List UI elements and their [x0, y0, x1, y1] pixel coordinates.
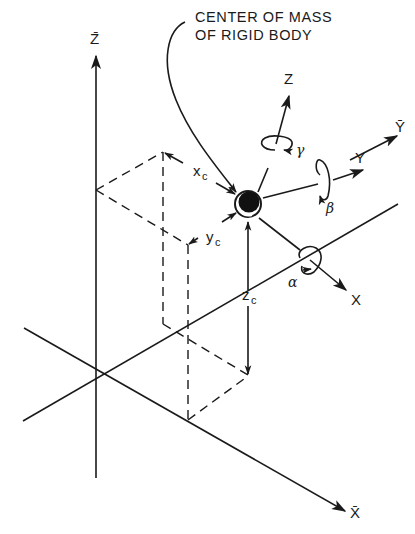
projection-box — [96, 152, 248, 420]
svg-text:c: c — [202, 170, 208, 182]
body-y-label: Y — [355, 149, 365, 166]
svg-text:c: c — [251, 294, 257, 306]
fixed-x-axis — [24, 328, 345, 511]
svg-text:z: z — [242, 286, 250, 303]
fixed-y-label: Ȳ — [395, 118, 405, 135]
fixed-z-label: Z̄ — [90, 30, 99, 47]
svg-text:x: x — [193, 162, 201, 179]
body-z-axis — [258, 96, 289, 192]
yc-label: y c — [206, 228, 221, 248]
svg-text:y: y — [206, 228, 214, 245]
alpha-label: α — [288, 274, 298, 290]
zc-label: z c — [242, 286, 257, 306]
body-y-axis — [263, 170, 363, 198]
xc-label: x c — [193, 162, 208, 182]
caption-line-1: CENTER OF MASS — [195, 9, 332, 25]
body-x-axis — [259, 218, 346, 290]
caption-line-2: OF RIGID BODY — [195, 27, 312, 43]
rotation-beta-icon — [316, 160, 329, 200]
svg-text:c: c — [215, 236, 221, 248]
rigid-body-coordinate-diagram: CENTER OF MASS OF RIGID BODY Z̄ Ȳ X̄ Z … — [0, 0, 415, 534]
fixed-x-label: X̄ — [350, 504, 360, 521]
callout-arrow — [167, 22, 236, 192]
gamma-label: γ — [296, 142, 305, 158]
fixed-y-axis — [23, 136, 398, 421]
body-x-label: X — [351, 291, 361, 308]
center-of-mass-icon — [235, 191, 261, 217]
body-z-label: Z — [284, 70, 293, 87]
beta-label: β — [325, 200, 334, 216]
